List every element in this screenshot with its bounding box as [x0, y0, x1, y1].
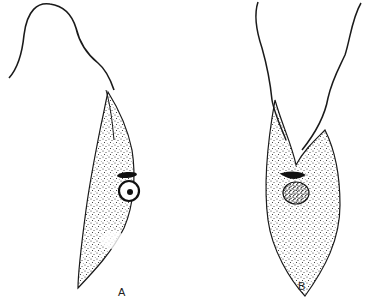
vacuole-a [100, 231, 126, 249]
flagellum-a [9, 4, 114, 90]
flagellum-b-right [302, 3, 361, 150]
panel-label-a: A [118, 286, 125, 298]
nucleolus-a [127, 189, 133, 195]
cell-b [256, 2, 361, 296]
panel-label-b: B [298, 280, 305, 292]
nucleus-b [283, 182, 309, 204]
cell-a [9, 4, 139, 288]
protozoa-illustration [0, 0, 370, 304]
